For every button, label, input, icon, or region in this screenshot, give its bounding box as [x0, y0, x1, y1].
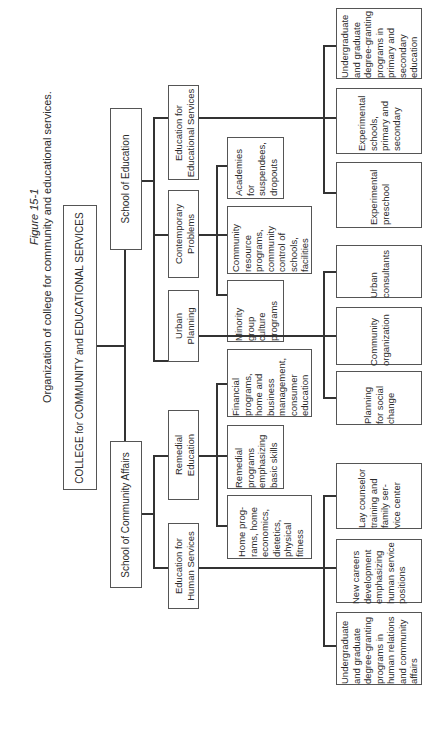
connector [153, 117, 168, 119]
root-college-label: COLLEGE for COMMUNITY and EDUCATIONAL SE… [74, 208, 86, 488]
connector [153, 234, 168, 236]
program-label: Financial programs, home and business ma… [229, 350, 310, 416]
program-label: Minority group culture programs [233, 281, 279, 341]
division-contemporary-problems-box: Contemporary Problems [168, 190, 199, 278]
connector [323, 495, 325, 646]
connector [216, 383, 227, 385]
program-label: Experimental schools, primary and second… [356, 91, 402, 151]
connector [216, 165, 227, 167]
connector [323, 335, 336, 337]
program-label: Lay counselor training and family ser- v… [356, 464, 402, 528]
program-label: New careers development emphasizing huma… [350, 538, 408, 604]
division-label: Remedial Education [172, 411, 195, 499]
division-label: Contemporary Problems [172, 191, 195, 277]
program-label: Undergraduate and graduate degree-granti… [339, 614, 420, 684]
connector [323, 45, 336, 47]
connector [323, 271, 336, 273]
connector [323, 645, 336, 647]
division-remedial-education-box: Remedial Education [168, 410, 199, 500]
program-box: New careers development emphasizing huma… [336, 539, 422, 603]
connector [153, 567, 168, 569]
connector [199, 117, 324, 119]
program-box: Community resource programs, community c… [227, 206, 312, 274]
connector [216, 455, 227, 457]
school-of-community-affairs-label: School of Community Affairs [120, 442, 132, 587]
division-label: Education for Human Services [172, 524, 195, 608]
program-box: Lay counselor training and family ser- v… [336, 463, 422, 529]
program-box: Community organization [336, 307, 422, 365]
program-box: Minority group culture programs [227, 280, 284, 342]
connector [153, 455, 155, 568]
program-label: Experimental preschool [368, 165, 391, 225]
connector [199, 455, 217, 457]
connector [199, 234, 217, 236]
figure-title: Organization of college for community an… [41, 91, 53, 403]
figure-label: Figure 15-1 [28, 189, 40, 245]
program-box: Undergraduate and graduate degree-granti… [336, 8, 422, 79]
program-label: Undergraduate and graduate degree-granti… [339, 10, 420, 78]
connector [153, 360, 168, 362]
program-box: Experimental schools, primary and second… [336, 88, 422, 154]
connector [216, 165, 218, 295]
program-box: Financial programs, home and business ma… [227, 349, 312, 417]
program-box: Undergraduate and graduate degree-granti… [336, 612, 422, 685]
program-box: Urban consultants [336, 245, 422, 298]
program-label: Remedial programs emphasizing basic skil… [233, 426, 279, 488]
program-label: Planning for social change [362, 372, 397, 424]
division-label: Urban Planning [172, 291, 195, 361]
school-of-education-label: School of Education [120, 109, 132, 249]
connector [199, 335, 329, 337]
connector [199, 567, 324, 569]
connector [97, 345, 125, 347]
school-of-education-box: School of Education [110, 108, 142, 250]
program-box: Planning for social change [336, 371, 422, 425]
connector [323, 495, 336, 497]
division-label: Education for Educational Services [172, 87, 195, 179]
program-label: Home prog- rams, home economics, dieteti… [235, 497, 304, 557]
connector [124, 250, 126, 441]
program-label: Urban consultants [368, 246, 391, 298]
connector [323, 397, 336, 399]
division-urban-planning-box: Urban Planning [168, 290, 199, 362]
school-of-community-affairs-box: School of Community Affairs [110, 441, 142, 588]
connector [216, 234, 227, 236]
connector [323, 567, 336, 569]
connector [323, 192, 336, 194]
connector [153, 455, 168, 457]
program-label: Community organization [368, 306, 391, 366]
division-educational-services-box: Education for Educational Services [168, 85, 199, 180]
connector [153, 117, 155, 362]
program-box: Remedial programs emphasizing basic skil… [227, 425, 284, 489]
connector [216, 525, 227, 527]
program-label: Community resource programs, community c… [229, 208, 310, 272]
program-box: Academies for suspendees, dropouts [227, 137, 284, 199]
program-label: Academies for suspendees, dropouts [233, 140, 279, 196]
connector [323, 45, 325, 193]
connector [323, 117, 336, 119]
root-college-box: COLLEGE for COMMUNITY and EDUCATIONAL SE… [63, 205, 97, 490]
program-box: Experimental preschool [336, 162, 422, 228]
division-human-services-box: Education for Human Services [168, 523, 199, 609]
program-box: Home prog- rams, home economics, dieteti… [227, 495, 312, 559]
connector [216, 294, 227, 296]
